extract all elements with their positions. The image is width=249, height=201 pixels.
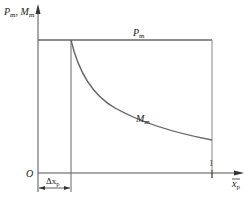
dimension-arrow-left-icon [39, 186, 45, 190]
origin-label: O [26, 168, 33, 179]
diagram-canvas: Pm, Mm xp O 1 Pm Mm Δxp [0, 0, 249, 201]
y-axis-label: Pm, Mm [3, 6, 35, 19]
x-axis [38, 170, 244, 178]
y-axis [36, 4, 41, 192]
y-axis-arrow-icon [36, 4, 41, 14]
x-tick-label-1: 1 [209, 158, 214, 168]
delta-xp-dimension [39, 186, 70, 190]
mm-label: Mm [135, 113, 150, 126]
x-axis-arrow-icon [234, 171, 244, 176]
svg-text:xp: xp [231, 178, 240, 191]
x-axis-label: xp [231, 178, 240, 191]
series-pm [38, 40, 212, 173]
delta-xp-label: Δxp [46, 176, 60, 187]
series-mm [71, 40, 212, 140]
dimension-arrow-right-icon [64, 186, 70, 190]
pm-label: Pm [132, 27, 145, 40]
